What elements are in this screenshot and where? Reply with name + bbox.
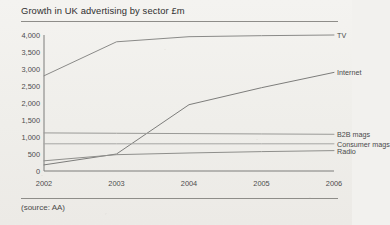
series-label: B2B mags <box>337 130 370 139</box>
series-label: Internet <box>337 68 361 77</box>
series-label: Radio <box>337 146 356 155</box>
x-tick-label: 2004 <box>181 179 197 188</box>
series-line <box>44 35 334 76</box>
title-divider <box>21 21 338 22</box>
chart-canvas <box>21 28 338 196</box>
source-note: (source: AA) <box>21 203 65 212</box>
x-tick-label: 2006 <box>326 179 342 188</box>
footer-divider <box>21 198 338 199</box>
x-tick-label: 2003 <box>108 179 124 188</box>
series-lines <box>44 35 334 165</box>
series-line <box>44 151 334 161</box>
series-label: TV <box>337 31 346 40</box>
x-tick-label: 2002 <box>36 179 52 188</box>
x-tick-label: 2005 <box>253 179 269 188</box>
series-line <box>44 133 334 134</box>
chart-title: Growth in UK advertising by sector £m <box>21 5 185 16</box>
plot-area <box>21 28 338 196</box>
